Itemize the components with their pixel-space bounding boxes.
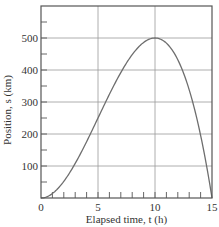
y-tick-label: 300 bbox=[22, 96, 39, 108]
x-tick-labels: 051015 bbox=[38, 201, 218, 213]
y-tick-labels: 100200300400500 bbox=[22, 32, 39, 172]
position-curve bbox=[41, 38, 212, 198]
axis-ticks bbox=[41, 22, 201, 198]
y-tick-label: 200 bbox=[22, 128, 39, 140]
x-tick-label: 15 bbox=[207, 201, 219, 213]
y-axis-label: Position, s (km) bbox=[1, 75, 14, 145]
y-tick-label: 400 bbox=[22, 64, 39, 76]
x-tick-label: 10 bbox=[150, 201, 162, 213]
x-axis-label: Elapsed time, t (h) bbox=[86, 213, 168, 226]
y-tick-label: 100 bbox=[22, 160, 39, 172]
x-tick-label: 0 bbox=[38, 201, 44, 213]
y-tick-label: 500 bbox=[22, 32, 39, 44]
x-tick-label: 5 bbox=[95, 201, 101, 213]
position-time-chart: 051015 100200300400500 Elapsed time, t (… bbox=[0, 0, 218, 227]
grid-lines bbox=[41, 6, 212, 198]
